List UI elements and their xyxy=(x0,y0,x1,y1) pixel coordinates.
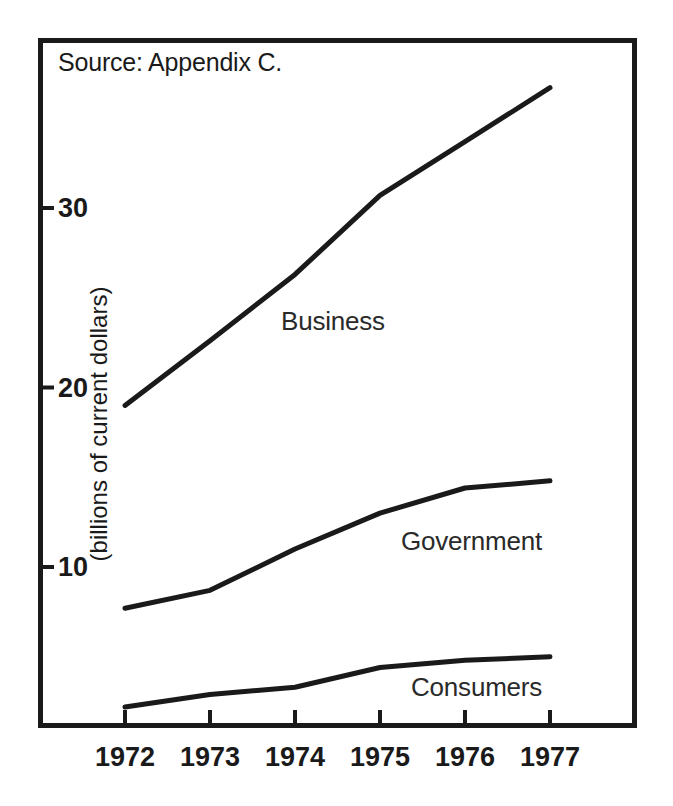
series-label-consumers: Consumers xyxy=(411,672,542,703)
source-note: Source: Appendix C. xyxy=(58,48,282,77)
line-chart-figure: Source: Appendix C. (billions of current… xyxy=(0,0,673,806)
plot-frame xyxy=(38,38,637,728)
series-label-business: Business xyxy=(281,306,385,337)
y-tick-label-30: 30 xyxy=(58,193,88,224)
y-tick-label-20: 20 xyxy=(58,373,88,404)
series-label-government: Government xyxy=(401,526,542,557)
y-axis-title: (billions of current dollars) xyxy=(85,259,113,589)
x-tick-label-1977: 1977 xyxy=(500,742,600,773)
y-tick-label-10: 10 xyxy=(58,552,88,583)
